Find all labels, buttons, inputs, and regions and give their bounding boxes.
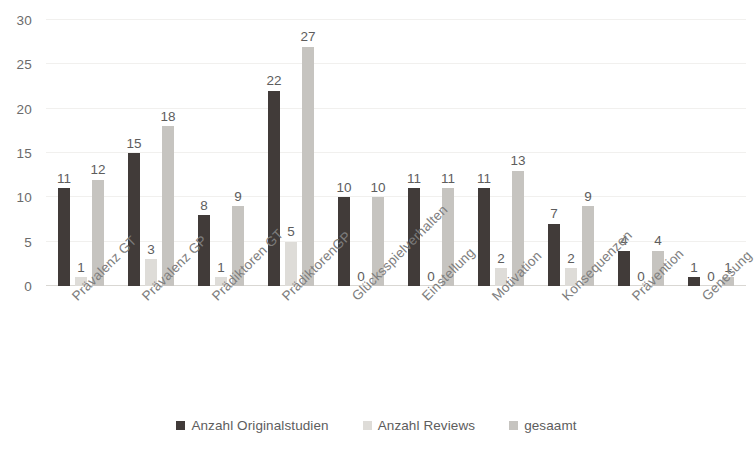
bar-value-label: 11 bbox=[477, 172, 491, 186]
bar-group: 729 bbox=[536, 20, 606, 286]
legend-swatch-icon bbox=[509, 421, 518, 430]
legend-label: Anzahl Reviews bbox=[378, 418, 475, 433]
legend-label: gesaamt bbox=[524, 418, 576, 433]
bar-value-label: 22 bbox=[266, 74, 281, 88]
chart-legend: Anzahl OriginalstudienAnzahl Reviewsgesa… bbox=[0, 418, 753, 433]
bar-value-label: 10 bbox=[336, 181, 351, 195]
legend-label: Anzahl Originalstudien bbox=[191, 418, 328, 433]
bar-value-label: 12 bbox=[90, 163, 105, 177]
bar-value-label: 1 bbox=[77, 261, 85, 275]
legend-item[interactable]: Anzahl Originalstudien bbox=[176, 418, 328, 433]
bar[interactable]: 22 bbox=[268, 91, 280, 286]
legend-item[interactable]: Anzahl Reviews bbox=[363, 418, 475, 433]
bar-value-label: 11 bbox=[407, 172, 421, 186]
legend-item[interactable]: gesaamt bbox=[509, 418, 576, 433]
bar-value-label: 5 bbox=[287, 225, 295, 239]
bar[interactable]: 1 bbox=[688, 277, 700, 286]
bar-value-label: 9 bbox=[234, 190, 242, 204]
y-axis-tick-label: 0 bbox=[24, 279, 32, 294]
bar[interactable]: 4 bbox=[618, 251, 630, 286]
bar-value-label: 2 bbox=[497, 252, 505, 266]
bar-value-label: 8 bbox=[200, 199, 208, 213]
bar-value-label: 3 bbox=[147, 243, 155, 257]
y-axis-tick-label: 30 bbox=[17, 13, 32, 28]
y-axis-tick-label: 20 bbox=[17, 101, 32, 116]
legend-swatch-icon bbox=[363, 421, 372, 430]
bar-value-label: 18 bbox=[160, 110, 175, 124]
bar-value-label: 4 bbox=[654, 234, 662, 248]
bar-value-label: 1 bbox=[690, 261, 698, 275]
y-axis-tick-label: 15 bbox=[17, 146, 32, 161]
x-axis-labels: Prävalenz GTPrävalenz GPPrädiktoren GTPr… bbox=[46, 287, 746, 402]
bar-value-label: 11 bbox=[441, 172, 455, 186]
bar[interactable]: 15 bbox=[128, 153, 140, 286]
bar[interactable]: 27 bbox=[302, 47, 314, 286]
y-axis-tick-label: 10 bbox=[17, 190, 32, 205]
y-axis-tick-label: 25 bbox=[17, 57, 32, 72]
bar-value-label: 9 bbox=[584, 190, 592, 204]
y-axis: 302520151050 bbox=[0, 20, 40, 286]
bar-value-label: 2 bbox=[567, 252, 575, 266]
bar[interactable]: 11 bbox=[58, 188, 70, 286]
bar-value-label: 15 bbox=[126, 137, 141, 151]
bar-value-label: 13 bbox=[510, 154, 525, 168]
y-axis-tick-label: 5 bbox=[24, 234, 32, 249]
bar-group: 11112 bbox=[46, 20, 116, 286]
bar-group: 101 bbox=[676, 20, 746, 286]
bar-value-label: 7 bbox=[550, 207, 558, 221]
bar-value-label: 1 bbox=[217, 261, 225, 275]
bar-value-label: 27 bbox=[300, 30, 315, 44]
bar-value-label: 10 bbox=[370, 181, 385, 195]
bar[interactable]: 7 bbox=[548, 224, 560, 286]
bar[interactable]: 11 bbox=[478, 188, 490, 286]
legend-swatch-icon bbox=[176, 421, 185, 430]
bar-group: 11213 bbox=[466, 20, 536, 286]
bar-value-label: 11 bbox=[57, 172, 71, 186]
